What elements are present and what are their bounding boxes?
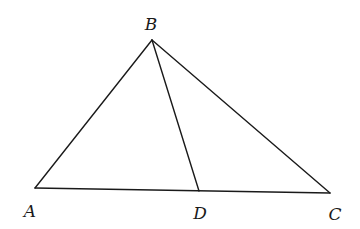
segment-ac xyxy=(35,188,330,193)
segment-bd xyxy=(152,40,199,191)
triangle-diagram: A B C D xyxy=(0,0,360,229)
segment-ab xyxy=(35,40,152,188)
label-point-c: C xyxy=(328,204,341,224)
label-point-b: B xyxy=(144,14,158,34)
segment-bc xyxy=(152,40,330,193)
label-point-d: D xyxy=(192,203,207,223)
label-point-a: A xyxy=(22,201,36,221)
